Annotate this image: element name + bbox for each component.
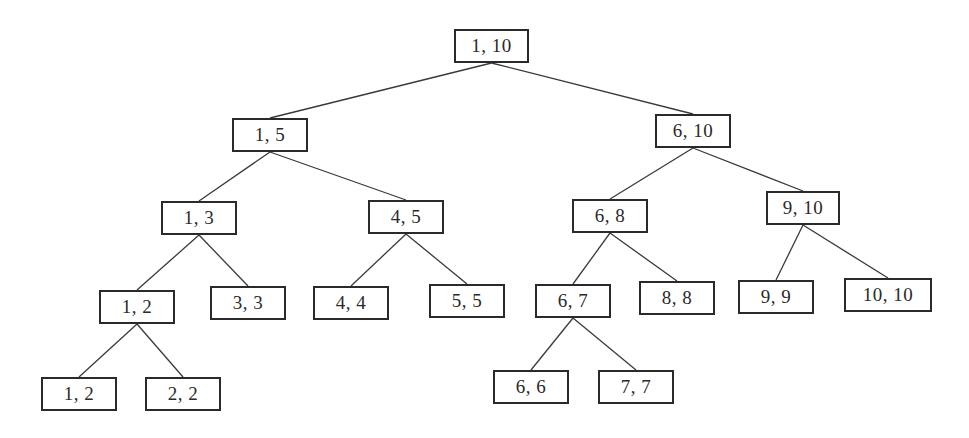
tree-node: 6, 10 [655, 114, 731, 148]
edge-n6_8-n6_7 [573, 233, 610, 284]
tree-node: 2, 2 [145, 377, 221, 411]
tree-node: 9, 9 [738, 280, 814, 314]
edge-n6_7-n7_7 [573, 318, 636, 370]
edge-n1_10-n6_10 [492, 63, 694, 114]
tree-node: 9, 10 [766, 191, 840, 225]
tree-node: 10, 10 [844, 278, 932, 312]
tree-node: 7, 7 [598, 370, 674, 404]
edge-n6_7-n6_6 [531, 318, 573, 370]
edge-n1_5-n4_5 [270, 152, 406, 200]
tree-node: 4, 5 [368, 200, 444, 234]
tree-node: 6, 6 [493, 370, 569, 404]
edge-n9_10-n9_9 [776, 225, 803, 280]
edge-n1_2-n2_2 [137, 324, 183, 377]
edge-n4_5-n5_5 [406, 234, 467, 284]
edge-n1_5-n1_3 [199, 152, 270, 201]
tree-node: 1, 3 [161, 201, 237, 235]
edge-n1_10-n1_5 [270, 63, 492, 118]
edge-n1_2-n1_2b [79, 324, 137, 377]
tree-node: 8, 8 [639, 281, 715, 315]
tree-node: 1, 5 [232, 118, 308, 152]
tree-node: 1, 2 [99, 290, 175, 324]
tree-node: 5, 5 [429, 284, 505, 318]
edge-n9_10-n10_10 [803, 225, 888, 278]
tree-node: 3, 3 [210, 286, 286, 320]
edge-n6_10-n9_10 [693, 148, 803, 191]
edge-n1_3-n1_2 [137, 235, 199, 290]
edge-n4_5-n4_4 [351, 234, 406, 286]
edge-n6_10-n6_8 [610, 148, 693, 199]
tree-node: 6, 8 [572, 199, 648, 233]
tree-node: 1, 2 [41, 377, 117, 411]
tree-node: 1, 10 [454, 29, 529, 63]
edge-n6_8-n8_8 [610, 233, 677, 281]
tree-node: 4, 4 [313, 286, 389, 320]
tree-node: 6, 7 [535, 284, 611, 318]
edge-n1_3-n3_3 [199, 235, 248, 286]
